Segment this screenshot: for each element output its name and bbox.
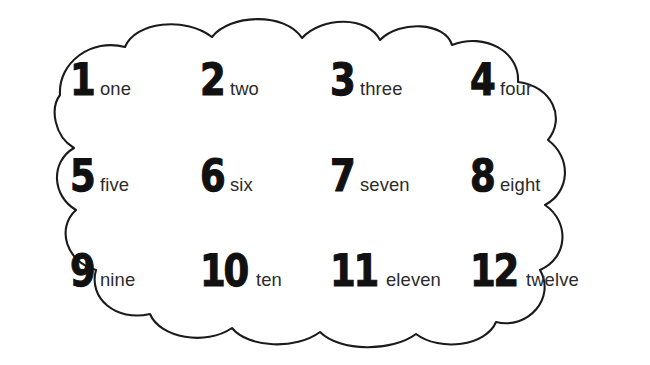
number-digit: 6: [200, 153, 224, 198]
number-digit: 8: [470, 153, 494, 198]
number-digit: 12: [470, 248, 517, 293]
number-cell: 2 two: [200, 60, 330, 156]
number-word: six: [230, 175, 253, 194]
number-word: seven: [360, 175, 410, 194]
number-digit: 10: [200, 248, 247, 293]
number-digit: 5: [70, 153, 94, 198]
number-cell: 4 four: [470, 60, 610, 156]
number-word: four: [500, 79, 532, 98]
number-digit: 7: [330, 153, 354, 198]
number-chart-page: 1 one 2 two 3 three 4 four 5 five 6 six …: [0, 0, 650, 365]
number-digit: 9: [70, 248, 94, 293]
number-digit: 1: [70, 57, 94, 102]
number-cell: 3 three: [330, 60, 470, 156]
number-word: eight: [500, 175, 540, 194]
number-cell: 7 seven: [330, 156, 470, 251]
number-grid: 1 one 2 two 3 three 4 four 5 five 6 six …: [0, 0, 650, 365]
number-cell: 5 five: [70, 156, 200, 251]
number-cell: 11 eleven: [330, 251, 470, 346]
number-cell: 1 one: [70, 60, 200, 156]
number-digit: 4: [470, 57, 494, 102]
number-digit: 3: [330, 57, 354, 102]
number-cell: 9 nine: [70, 251, 200, 346]
number-word: ten: [256, 270, 282, 289]
number-word: five: [100, 175, 129, 194]
number-word: three: [360, 79, 402, 98]
number-digit: 2: [200, 57, 224, 102]
number-cell: 6 six: [200, 156, 330, 251]
number-word: eleven: [386, 270, 441, 289]
number-digit: 11: [330, 248, 377, 293]
number-cell: 10 ten: [200, 251, 330, 346]
number-cell: 12 twelve: [470, 251, 610, 346]
number-word: twelve: [526, 270, 579, 289]
number-word: nine: [100, 270, 135, 289]
number-word: one: [100, 79, 131, 98]
number-cell: 8 eight: [470, 156, 610, 251]
number-word: two: [230, 79, 259, 98]
